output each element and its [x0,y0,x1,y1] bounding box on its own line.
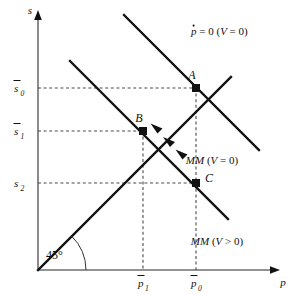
y-tick-s2: s 2 [14,177,25,193]
curve-label-mm-v-positive: MM (V > 0) [190,235,244,248]
x-tick-p1: p 1 [137,276,149,293]
y-tick-s2-base: s [14,177,18,189]
curve-label-pdot-zero-text: p = 0 (V = 0) [190,25,248,38]
x-axis-label: p [279,276,286,288]
y-tick-s1-base: s [14,125,18,137]
x-tick-p0-subscript: 0 [198,284,202,293]
angle-label: 45° [46,248,63,262]
p-dot-accent-icon [193,25,195,27]
y-tick-s0-subscript: 0 [21,89,25,98]
x-tick-p1-subscript: 1 [145,284,149,293]
guide-lines-group [38,88,196,270]
point-label-a: A [187,68,196,82]
y-tick-s1: s 1 [14,124,25,141]
curves-group [38,15,259,270]
x-tick-p0: p 0 [190,276,202,293]
curve-label-pdot-zero: p = 0 (V = 0) [190,25,248,38]
x-axis-arrowhead [270,266,280,274]
point-marker-b [139,127,147,135]
y-axis-arrowhead [34,10,42,20]
point-markers-group [139,84,200,187]
point-label-b: B [135,111,143,125]
x-tick-p0-base: p [190,277,197,289]
adjustment-arrow-1 [151,124,163,134]
y-tick-s2-subscript: 2 [21,184,25,193]
curve-mm-v-positive [70,61,228,219]
y-tick-s0: s 0 [14,81,25,98]
y-axis-label: s [28,4,32,16]
adjustment-arrows-group [151,124,188,160]
x-tick-p1-base: p [137,277,144,289]
y-tick-s1-subscript: 1 [21,132,25,141]
angle-arc [72,236,87,270]
point-marker-a [192,84,200,92]
y-tick-s0-base: s [14,82,18,94]
curve-label-mm-v-zero: MM (V = 0) [185,154,239,167]
phase-diagram-figure: s p s 0 s 1 s 2 p 1 p 0 A B C [0,0,296,294]
x-tick-labels-group: p 1 p 0 [137,276,202,293]
point-marker-c [192,179,200,187]
point-label-c: C [205,171,214,185]
y-tick-labels-group: s 0 s 1 s 2 [14,81,25,193]
